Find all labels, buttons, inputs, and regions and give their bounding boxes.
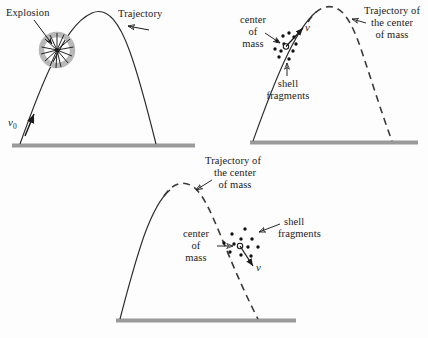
velocity-label: v <box>305 21 310 33</box>
velocity-label: v <box>256 261 261 273</box>
physics-figure-explosion-trajectories: Explosion Trajectory v0 center of mass v… <box>0 0 428 338</box>
trajectory-leader-arrow <box>128 26 149 30</box>
shell-fragments-label-line-1: shell <box>258 78 318 90</box>
center-of-mass-label-line-1: center <box>174 228 218 240</box>
ground-line <box>12 144 195 148</box>
solid-ascending-trajectory <box>120 190 170 319</box>
center-of-mass-label-line-1: center <box>232 14 274 26</box>
shell-fragments-label-line-1: shell <box>284 216 304 228</box>
shell-fragments-label-line-2: fragments <box>258 90 318 102</box>
trajectory-com-label-line-1: Trajectory of <box>196 155 270 167</box>
initial-velocity-label: v0 <box>8 116 17 131</box>
trajectory-com-label-line-3: of mass <box>357 29 427 41</box>
trajectory-com-label-line-2: the center <box>200 167 270 179</box>
ground-line <box>116 319 296 323</box>
shell-fragments-leader-arrow <box>259 224 280 232</box>
center-of-mass-label-line-2: of <box>232 26 274 38</box>
panel-top-left-graphics <box>12 11 195 147</box>
trajectory-com-label-line-1: Trajectory of <box>357 5 427 17</box>
shell-fragments-label-line-2: fragments <box>278 228 321 240</box>
solid-parabolic-trajectory <box>20 11 156 144</box>
trajectory-label: Trajectory <box>118 8 162 20</box>
initial-velocity-subscript: 0 <box>13 122 17 131</box>
center-of-mass-label-line-3: mass <box>174 252 218 264</box>
explosion-center-dot <box>55 48 59 52</box>
ground-line <box>250 141 418 145</box>
trajectory-com-label-line-2: the center <box>357 17 427 29</box>
center-of-mass-label-line-3: mass <box>232 38 274 50</box>
center-of-mass-label-line-2: of <box>174 240 218 252</box>
trajectory-com-label-line-3: of mass <box>200 179 270 191</box>
explosion-label: Explosion <box>6 7 50 19</box>
